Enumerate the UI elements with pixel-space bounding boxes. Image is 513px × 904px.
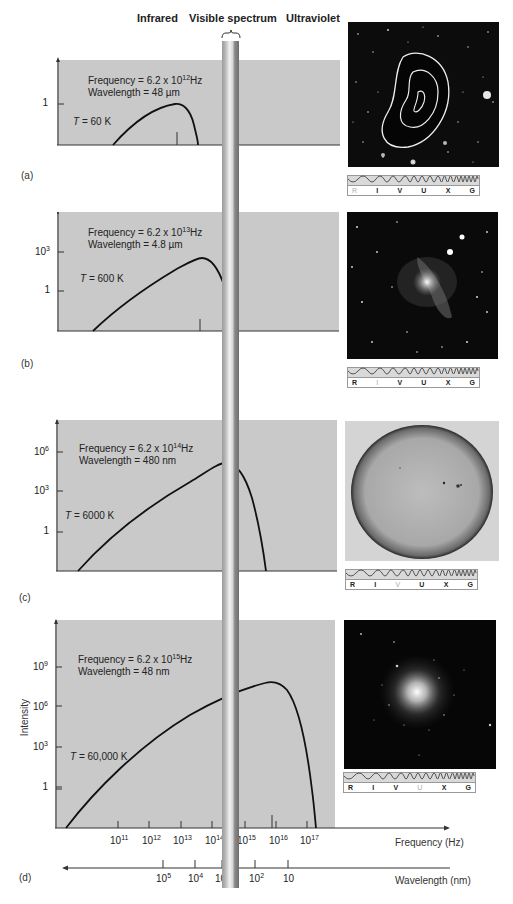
wl-tick-1e4: 104 bbox=[188, 873, 203, 884]
ytick-label-d-1000: 103 bbox=[18, 740, 48, 752]
freq-tick-1e13: 1013 bbox=[173, 835, 192, 846]
band-x: X bbox=[442, 783, 447, 792]
x-axis-title-frequency: Frequency (Hz) bbox=[395, 837, 464, 848]
freq-tick-1e16: 1016 bbox=[269, 835, 288, 846]
ytick-label-d-1e9: 109 bbox=[18, 660, 48, 672]
wl-tick-10: 10 bbox=[283, 873, 294, 884]
annotation-d: Frequency = 6.2 x 1015Hz Wavelength = 48… bbox=[78, 654, 192, 678]
x-axis-title-wavelength: Wavelength (nm) bbox=[395, 875, 471, 886]
wl-tick-1e5: 105 bbox=[156, 873, 171, 884]
wl-tick-1e2: 102 bbox=[249, 873, 264, 884]
ytick-label-d-1e6: 106 bbox=[18, 700, 48, 712]
freq-tick-1e11: 1011 bbox=[110, 835, 128, 846]
band-g: G bbox=[466, 783, 471, 792]
band-u: U bbox=[417, 783, 422, 792]
panel-label-d: (d) bbox=[19, 872, 31, 883]
freq-tick-1e12: 1012 bbox=[142, 835, 161, 846]
visible-spectrum-band bbox=[222, 41, 239, 888]
ytick-label-d-1: 1 bbox=[18, 781, 48, 792]
rivuxg-band-indicator-d: R I V U X G bbox=[343, 772, 476, 793]
freq-tick-1e17: 1017 bbox=[300, 835, 319, 846]
band-r: R bbox=[348, 783, 353, 792]
image-star-cluster bbox=[344, 620, 496, 769]
band-i: I bbox=[372, 783, 374, 792]
temperature-label-d: T = 60,000 K bbox=[70, 751, 128, 762]
band-v: V bbox=[393, 783, 398, 792]
freq-tick-1e15: 1015 bbox=[237, 835, 256, 846]
